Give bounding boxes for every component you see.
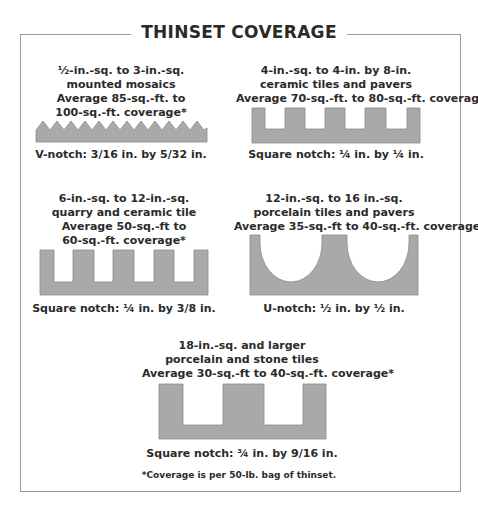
square-notch-1-caption: Square notch: ¼ in. by ¼ in. (236, 148, 436, 161)
square-notch-3-caption: Square notch: ¾ in. by 9/16 in. (142, 447, 342, 460)
coverage-footnote: *Coverage is per 50-lb. bag of thinset. (0, 470, 478, 480)
caption-text: Square notch: ¾ in. by 9/16 in. (146, 447, 337, 460)
u-notch-caption: U-notch: ½ in. by ½ in. (234, 302, 434, 315)
caption-text: Square notch: ¼ in. by 3/8 in. (32, 302, 216, 315)
square-notch-trowel-icon (40, 250, 208, 295)
u-notch-trowel-icon (250, 235, 418, 295)
trowel-profiles (0, 0, 478, 514)
v-notch-caption: V-notch: 3/16 in. by 5/32 in. (21, 148, 221, 161)
caption-text: U-notch: ½ in. by ½ in. (263, 302, 404, 315)
caption-text: V-notch: 3/16 in. by 5/32 in. (35, 148, 206, 161)
square-notch-2-caption: Square notch: ¼ in. by 3/8 in. (24, 302, 224, 315)
caption-text: Square notch: ¼ in. by ¼ in. (248, 148, 424, 161)
square-notch-trowel-icon (159, 384, 326, 439)
v-notch-trowel-icon (36, 121, 207, 142)
square-notch-trowel-icon (252, 108, 420, 143)
